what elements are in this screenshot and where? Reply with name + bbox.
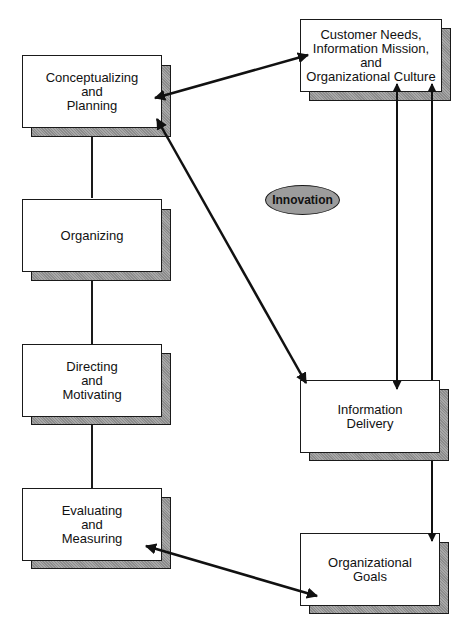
box-label: Directing and Motivating [62, 360, 121, 402]
box-evaluating-measuring: Evaluating and Measuring [22, 488, 162, 561]
box-label: Information Delivery [337, 403, 402, 431]
box-directing-motivating: Directing and Motivating [22, 344, 162, 417]
innovation-label: Innovation [272, 193, 333, 207]
box-label: Conceptualizing and Planning [46, 71, 139, 113]
box-information-delivery: Information Delivery [300, 380, 440, 453]
box-organizational-goals: Organizational Goals [300, 533, 440, 606]
box-customer-needs: Customer Needs, Information Mission, and… [300, 19, 442, 92]
box-label: Evaluating and Measuring [62, 504, 123, 546]
box-label: Customer Needs, Information Mission, and… [306, 28, 435, 84]
box-conceptualizing-planning: Conceptualizing and Planning [22, 55, 162, 128]
management-process-diagram: Conceptualizing and Planning Organizing … [0, 0, 471, 630]
box-label: Organizational Goals [328, 556, 412, 584]
box-organizing: Organizing [22, 199, 162, 272]
innovation-oval: Innovation [265, 185, 340, 215]
box-label: Organizing [61, 229, 124, 243]
